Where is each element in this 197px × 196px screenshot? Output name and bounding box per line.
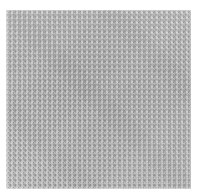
weave-swatch (6, 10, 191, 189)
texture-canvas (0, 0, 197, 196)
intersection-knots-layer (6, 10, 191, 189)
